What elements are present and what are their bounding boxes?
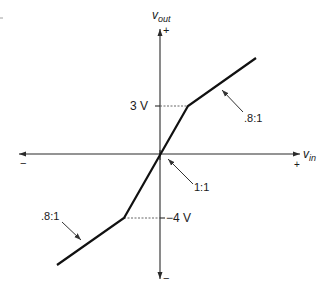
upper-slope-label: .8:1 [244,112,262,124]
middle-slope-pointer [168,159,193,184]
x-axis-label: vin [303,147,316,163]
x-axis-positive-sign: + [294,159,300,170]
upper-breakpoint-label: 3 V [130,99,148,113]
upper-slope-pointer [222,90,243,112]
y-axis-negative-sign: − [163,272,169,284]
y-axis-positive-sign: + [163,24,169,36]
transfer-characteristic-diagram: vout + − vin + − 3 V −4 V .8:1 1:1 .8:1 [0,0,332,295]
transfer-curve [57,58,256,265]
y-axis-label-sub: out [158,14,171,24]
lower-breakpoint-label: −4 V [166,211,191,225]
lower-slope-label: .8:1 [41,210,59,222]
middle-slope-label: 1:1 [194,181,209,193]
x-axis-negative-sign: − [20,157,26,169]
lower-slope-pointer [62,222,81,240]
x-axis-label-sub: in [309,153,316,163]
y-axis-label: vout [152,8,171,24]
